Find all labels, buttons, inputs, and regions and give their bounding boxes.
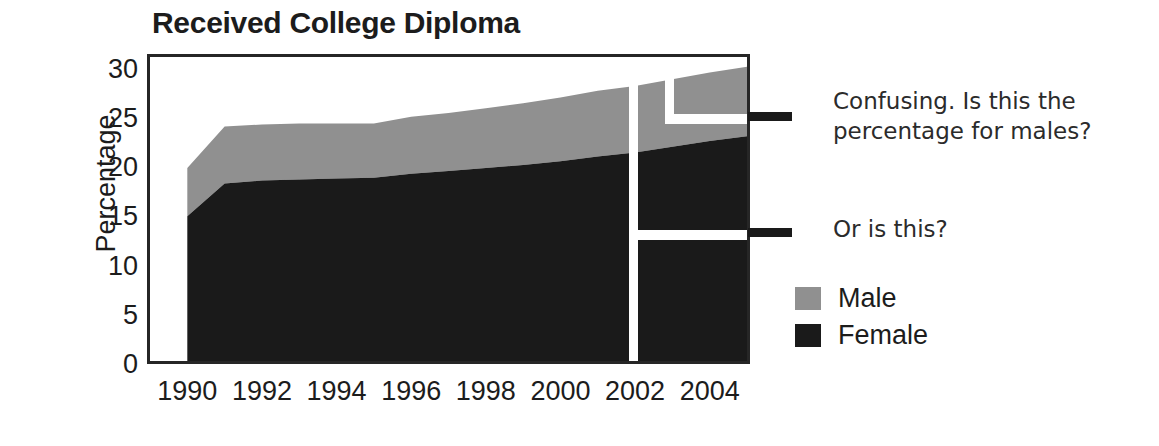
plot-area (147, 54, 750, 364)
y-axis-tick-0: 0 (78, 351, 138, 378)
legend: MaleFemale (795, 280, 928, 354)
callout-tick-lower (748, 228, 792, 237)
y-axis-tick-30: 30 (78, 56, 138, 83)
annotation-males-question: Confusing. Is this the percentage for ma… (833, 86, 1143, 146)
callout-spine-vertical (629, 57, 638, 361)
legend-swatch-female (795, 324, 821, 347)
callout-upper-horizontal (665, 114, 747, 124)
y-axis: Percentage 051015202530 (70, 0, 138, 446)
x-axis-tick-2004: 2004 (665, 376, 755, 406)
chart-figure: Received College Diploma Percentage 0510… (0, 0, 1159, 446)
plot-inner (150, 57, 747, 361)
legend-swatch-male (795, 287, 821, 310)
y-axis-tick-20: 20 (78, 154, 138, 181)
chart-title: Received College Diploma (152, 6, 520, 40)
y-axis-tick-5: 5 (78, 302, 138, 329)
callout-lower-horizontal (629, 230, 747, 240)
legend-item-male[interactable]: Male (795, 280, 928, 317)
y-axis-tick-15: 15 (78, 203, 138, 230)
legend-label-male: Male (838, 285, 897, 312)
legend-item-female[interactable]: Female (795, 317, 928, 354)
y-axis-tick-25: 25 (78, 105, 138, 132)
y-axis-tick-10: 10 (78, 253, 138, 280)
stacked-area-series (150, 57, 747, 361)
annotation-or-is-this: Or is this? (833, 214, 1143, 244)
legend-label-female: Female (838, 322, 928, 349)
x-axis: 19901992199419961998200020022004 (147, 376, 750, 416)
callout-tick-upper (748, 112, 792, 121)
